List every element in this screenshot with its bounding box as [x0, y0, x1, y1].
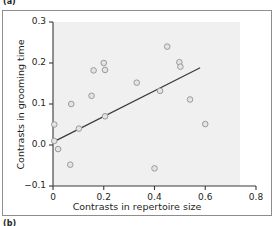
- y-tick-label: 0.2: [16, 57, 46, 67]
- y-tick-label: −0.1: [16, 180, 46, 190]
- data-point: [101, 60, 107, 66]
- panel-label-b: (b): [3, 219, 16, 226]
- y-tick-label: 0.0: [16, 139, 46, 149]
- y-tick-label: 0.3: [16, 16, 46, 26]
- x-tick-label: 0.6: [190, 192, 220, 202]
- data-point: [157, 88, 163, 94]
- scatter-chart: Contrasts in repertoire size Contrasts i…: [0, 0, 274, 226]
- data-point: [89, 93, 95, 99]
- x-tick-label: 0.4: [140, 192, 170, 202]
- data-point: [102, 67, 108, 73]
- x-tick-label: 0: [38, 192, 68, 202]
- data-point: [202, 121, 208, 127]
- data-point: [55, 146, 61, 152]
- figure-panel-a: (a) Contrasts in repertoire size Contras…: [0, 0, 274, 226]
- data-point: [51, 122, 57, 128]
- data-point: [68, 101, 74, 107]
- data-point: [152, 166, 158, 172]
- data-point: [164, 44, 170, 50]
- x-tick-label: 0.2: [89, 192, 119, 202]
- data-point: [51, 138, 57, 144]
- data-point: [91, 68, 97, 74]
- plot-background: [53, 22, 240, 186]
- data-point: [178, 64, 184, 70]
- x-axis-title: Contrasts in repertoire size: [0, 201, 274, 212]
- data-point: [76, 126, 82, 132]
- y-tick-label: 0.1: [16, 98, 46, 108]
- data-point: [102, 114, 108, 120]
- x-tick-label: 0.8: [241, 192, 271, 202]
- data-point: [134, 80, 140, 86]
- data-point: [187, 97, 193, 103]
- data-point: [67, 162, 73, 168]
